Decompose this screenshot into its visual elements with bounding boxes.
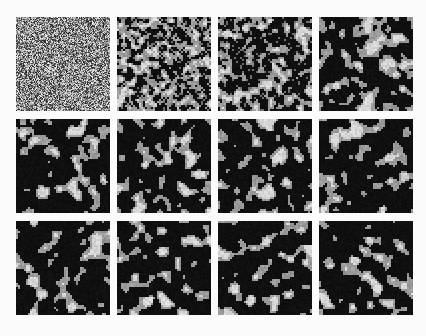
snapshot-panel-11 xyxy=(218,221,312,315)
snapshot-panel-5 xyxy=(16,119,110,213)
snapshot-panel-9 xyxy=(16,221,110,315)
lattice-image xyxy=(218,119,312,213)
lattice-image xyxy=(16,17,110,111)
snapshot-panel-4 xyxy=(319,17,413,111)
snapshot-panel-10 xyxy=(117,221,211,315)
lattice-image xyxy=(16,119,110,213)
lattice-image xyxy=(117,119,211,213)
snapshot-panel-2 xyxy=(117,17,211,111)
lattice-image xyxy=(218,221,312,315)
snapshot-panel-6 xyxy=(117,119,211,213)
snapshot-panel-7 xyxy=(218,119,312,213)
lattice-image xyxy=(218,17,312,111)
lattice-image xyxy=(319,221,413,315)
simulation-snapshot-grid xyxy=(0,0,426,336)
lattice-image xyxy=(16,221,110,315)
lattice-image xyxy=(117,221,211,315)
lattice-image xyxy=(319,119,413,213)
lattice-image xyxy=(319,17,413,111)
snapshot-panel-1 xyxy=(16,17,110,111)
snapshot-panel-8 xyxy=(319,119,413,213)
snapshot-panel-3 xyxy=(218,17,312,111)
lattice-image xyxy=(117,17,211,111)
snapshot-panel-12 xyxy=(319,221,413,315)
